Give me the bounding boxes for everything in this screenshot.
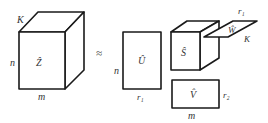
- decomposition-diagram: K n m Ẑ ≈ n Û r₁ Ŝ r₁ Ŵ K V̂ r₂ m: [0, 0, 268, 123]
- label-k-w: K: [243, 34, 251, 44]
- label-n-z: n: [10, 57, 15, 68]
- label-z-hat: Ẑ: [36, 57, 42, 68]
- label-k-z: K: [16, 14, 25, 25]
- tensor-z-cube: [19, 12, 84, 89]
- label-s-hat: Ŝ: [181, 47, 186, 58]
- label-u-hat: Û: [138, 55, 146, 66]
- label-r1-u: r₁: [137, 92, 144, 102]
- label-m-z: m: [38, 91, 45, 102]
- label-r1-w: r₁: [238, 6, 245, 16]
- label-n-u: n: [114, 65, 119, 76]
- label-m-v: m: [188, 110, 195, 121]
- label-r2-v: r₂: [223, 90, 230, 100]
- approx-symbol: ≈: [96, 47, 102, 59]
- core-s-cube: [171, 21, 219, 70]
